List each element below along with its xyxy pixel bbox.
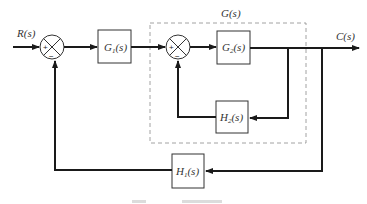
- sj2-minus-sign: −: [175, 52, 180, 61]
- sj1-minus-sign: −: [49, 52, 54, 61]
- input-signal-label: R(s): [16, 27, 36, 40]
- block-g2-label: G2(s): [222, 41, 245, 55]
- figure-caption-clipped: [132, 200, 222, 203]
- inner-feedback-wire-to-h2: [250, 48, 288, 118]
- outer-feedback-wire-to-s1: [55, 61, 172, 170]
- inner-feedback-wire-to-s2: [178, 61, 216, 117]
- summing-junction-2: + −: [166, 35, 190, 61]
- g-group-label: G(s): [221, 7, 241, 20]
- sj1-plus-sign: +: [43, 43, 48, 52]
- block-h1-label: H1(s): [175, 165, 199, 179]
- block-diagram: G(s) R(s) + − G1(s) + − G2(s) C(s) H2(s)…: [0, 0, 367, 204]
- summing-junction-1: + −: [40, 35, 64, 61]
- block-g1-label: G1(s): [104, 41, 127, 55]
- output-signal-label: C(s): [336, 30, 355, 43]
- block-h2-label: H2(s): [219, 111, 243, 125]
- sj2-plus-sign: +: [169, 43, 174, 52]
